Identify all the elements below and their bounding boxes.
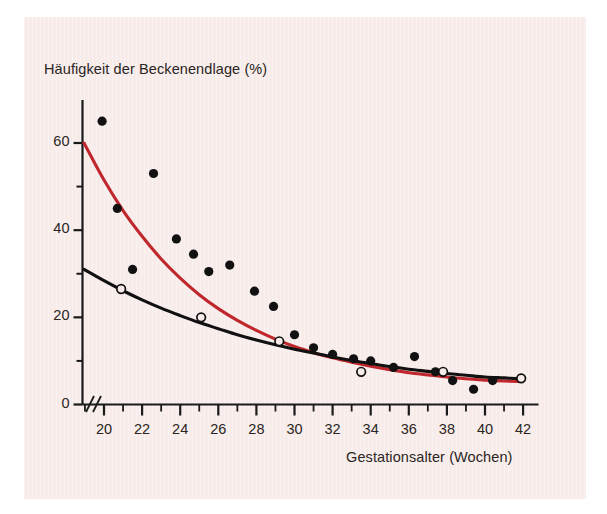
chart-plot-area: [0, 0, 607, 514]
figure-container: Häufigkeit der Beckenendlage (%) Gestati…: [0, 0, 607, 514]
data-point-filled: [113, 204, 122, 213]
x-tick-label: 30: [275, 421, 315, 437]
data-point-filled: [97, 117, 106, 126]
y-axis-title: Häufigkeit der Beckenendlage (%): [44, 61, 267, 77]
y-tick-label: 60: [32, 133, 70, 149]
data-point-filled: [389, 363, 398, 372]
data-point-filled: [366, 356, 375, 365]
data-point-filled: [488, 376, 497, 385]
data-point-filled: [225, 260, 234, 269]
x-tick-label: 42: [503, 421, 543, 437]
data-point-filled: [189, 250, 198, 259]
data-point-open: [357, 368, 366, 377]
data-point-open: [517, 374, 526, 383]
x-tick-label: 20: [84, 421, 124, 437]
x-tick-label: 22: [122, 421, 162, 437]
y-tick-label: 40: [32, 220, 70, 236]
x-tick-label: 40: [465, 421, 505, 437]
series-line-black-fit-curve: [84, 269, 521, 378]
x-tick-label: 32: [313, 421, 353, 437]
x-tick-label: 28: [236, 421, 276, 437]
data-point-filled: [349, 354, 358, 363]
data-point-filled: [328, 350, 337, 359]
data-point-filled: [204, 267, 213, 276]
data-point-filled: [469, 385, 478, 394]
data-point-filled: [309, 343, 318, 352]
x-tick-label: 26: [198, 421, 238, 437]
data-point-open: [197, 313, 206, 322]
data-point-filled: [448, 376, 457, 385]
series-line-red-fit-curve: [84, 143, 521, 381]
data-point-filled: [128, 265, 137, 274]
x-tick-label: 38: [427, 421, 467, 437]
x-tick-label: 34: [351, 421, 391, 437]
data-point-open: [117, 285, 126, 294]
data-point-filled: [250, 287, 259, 296]
data-point-open: [275, 337, 284, 346]
x-axis-title: Gestationsalter (Wochen): [346, 449, 513, 465]
y-tick-label: 0: [32, 395, 70, 411]
data-point-filled: [410, 352, 419, 361]
data-point-filled: [269, 302, 278, 311]
data-point-filled: [172, 234, 181, 243]
data-point-filled: [149, 169, 158, 178]
x-tick-label: 36: [389, 421, 429, 437]
data-point-open: [439, 368, 448, 377]
data-point-filled: [290, 330, 299, 339]
x-tick-label: 24: [160, 421, 200, 437]
y-tick-label: 20: [32, 307, 70, 323]
